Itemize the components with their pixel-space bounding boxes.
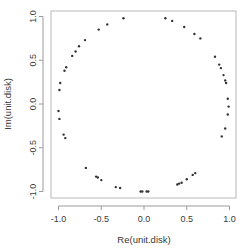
data-point <box>183 26 185 28</box>
x-tick-label: -0.5 <box>93 214 109 224</box>
y-tick-label: 1.0 <box>28 10 38 23</box>
data-point <box>59 82 61 84</box>
data-point <box>192 174 194 176</box>
data-point <box>222 74 224 76</box>
data-point <box>57 110 59 112</box>
y-tick-label: -0.5 <box>28 140 38 156</box>
data-point <box>58 89 60 91</box>
data-point <box>214 56 216 58</box>
x-tick-label: 1.0 <box>223 214 236 224</box>
data-point <box>199 37 201 39</box>
data-point <box>164 17 166 19</box>
data-point <box>97 176 99 178</box>
data-point <box>74 50 76 52</box>
y-axis-label: Im(unit.disk) <box>2 78 13 130</box>
data-point <box>147 190 149 192</box>
data-point <box>64 137 66 139</box>
data-point <box>171 20 173 22</box>
data-point <box>221 135 223 137</box>
data-point <box>186 178 188 180</box>
data-point <box>58 118 60 120</box>
data-point <box>65 66 67 68</box>
data-point <box>220 67 222 69</box>
data-point <box>224 79 226 81</box>
y-tick-label: -1.0 <box>28 184 38 200</box>
data-point <box>98 28 100 30</box>
data-point <box>225 82 227 84</box>
data-point <box>194 172 196 174</box>
y-tick-label: 0.0 <box>28 98 38 111</box>
x-tick-label: -1.0 <box>51 214 67 224</box>
plot-frame <box>51 11 236 198</box>
data-point <box>178 182 180 184</box>
data-point <box>84 39 86 41</box>
x-axis: -1.0-0.50.00.51.0 <box>51 206 236 224</box>
data-point <box>100 179 102 181</box>
data-point <box>141 190 143 192</box>
data-point <box>227 105 229 107</box>
data-point <box>63 70 65 72</box>
scatter-chart: -1.0-0.50.00.51.0 -1.0-0.50.00.51.0 Re(u… <box>0 0 247 249</box>
data-point <box>193 33 195 35</box>
data-point <box>106 23 108 25</box>
data-point <box>85 167 87 169</box>
x-tick-label: 0.5 <box>180 214 193 224</box>
data-point <box>227 113 229 115</box>
x-tick-label: 0.0 <box>138 214 151 224</box>
y-axis: -1.0-0.50.00.51.0 <box>28 10 43 199</box>
data-point <box>218 63 220 65</box>
y-tick-label: 0.5 <box>28 54 38 67</box>
data-point <box>227 98 229 100</box>
data-point <box>115 186 117 188</box>
data-point <box>71 55 73 57</box>
x-axis-label: Re(unit.disk) <box>117 234 170 245</box>
data-point <box>122 17 124 19</box>
data-point <box>62 133 64 135</box>
data-point <box>78 45 80 47</box>
data-point <box>180 182 182 184</box>
data-point <box>224 127 226 129</box>
chart-canvas: -1.0-0.50.00.51.0 -1.0-0.50.00.51.0 Re(u… <box>0 0 247 249</box>
data-point <box>119 187 121 189</box>
